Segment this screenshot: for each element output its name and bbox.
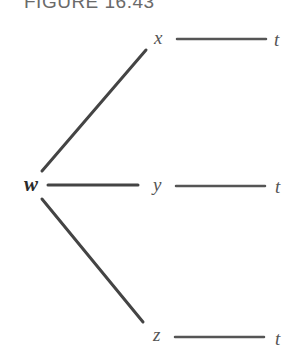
node-y: y: [153, 175, 161, 194]
node-z: z: [153, 325, 160, 344]
node-t-top: t: [274, 30, 279, 49]
node-t-mid: t: [275, 177, 280, 196]
node-w: w: [24, 174, 38, 195]
node-t-bottom: t: [275, 329, 280, 348]
tree-diagram: [0, 0, 291, 359]
node-x: x: [154, 28, 162, 47]
edge-w-x: [42, 50, 146, 171]
edge-w-z: [42, 199, 143, 322]
